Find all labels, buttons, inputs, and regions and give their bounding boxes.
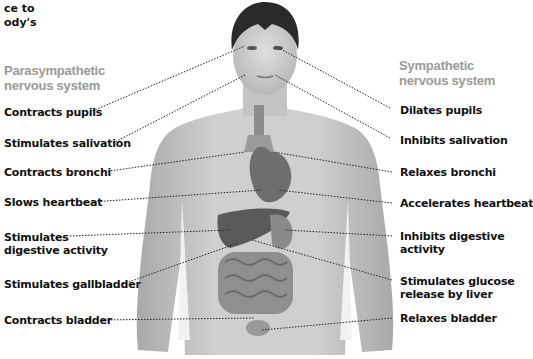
heading-line-2: nervous system	[4, 78, 105, 93]
parasympathetic-heading: Parasympathetic nervous system	[4, 63, 105, 93]
label-text-line-1: Stimulates glucose	[400, 275, 515, 288]
para-label-stimulates-salivation: Stimulates salivation	[4, 137, 131, 150]
para-label-stimulates-digestive: Stimulates digestive activity	[4, 231, 108, 257]
intro-text-fragment: ce to ody's	[4, 2, 37, 30]
label-text-line-2: release by liver	[400, 288, 515, 301]
para-label-stimulates-gallbladder: Stimulates gallbladder	[4, 278, 141, 291]
para-label-contracts-bronchi: Contracts bronchi	[4, 166, 111, 179]
intro-line-1: ce to	[4, 2, 37, 16]
heading-line-1: Parasympathetic	[4, 63, 105, 78]
label-text: Stimulates gallbladder	[4, 278, 141, 291]
label-text-line-2: activity	[400, 243, 504, 256]
para-label-slows-heartbeat: Slows heartbeat	[4, 196, 102, 209]
symp-label-dilates-pupils: Dilates pupils	[400, 104, 482, 117]
para-label-contracts-pupils: Contracts pupils	[4, 106, 102, 119]
bladder	[246, 320, 270, 336]
intro-line-2: ody's	[4, 16, 37, 30]
para-label-contracts-bladder: Contracts bladder	[4, 314, 112, 327]
symp-label-accelerates-heartbeat: Accelerates heartbeat	[400, 197, 533, 210]
label-text: Inhibits salivation	[400, 134, 508, 147]
symp-label-inhibits-salivation: Inhibits salivation	[400, 134, 508, 147]
label-text: Dilates pupils	[400, 104, 482, 117]
heading-line-2: nervous system	[399, 73, 495, 88]
label-text: Stimulates salivation	[4, 137, 131, 150]
sympathetic-heading: Sympathetic nervous system	[399, 58, 495, 88]
symp-label-inhibits-digestive: Inhibits digestive activity	[400, 230, 504, 256]
trachea	[254, 105, 264, 140]
eye-left	[247, 46, 257, 50]
symp-label-stimulates-glucose: Stimulates glucose release by liver	[400, 275, 515, 301]
label-text-line-1: Stimulates	[4, 231, 108, 244]
label-text: Relaxes bladder	[400, 312, 497, 325]
label-text: Accelerates heartbeat	[400, 197, 533, 210]
label-text: Relaxes bronchi	[400, 166, 496, 179]
label-text-line-2: digestive activity	[4, 244, 108, 257]
symp-label-relaxes-bladder: Relaxes bladder	[400, 312, 497, 325]
label-text: Slows heartbeat	[4, 196, 102, 209]
intestines	[218, 252, 293, 314]
symp-label-relaxes-bronchi: Relaxes bronchi	[400, 166, 496, 179]
heading-line-1: Sympathetic	[399, 58, 495, 73]
label-text: Contracts pupils	[4, 106, 102, 119]
label-text: Contracts bladder	[4, 314, 112, 327]
label-text: Contracts bronchi	[4, 166, 111, 179]
label-text-line-1: Inhibits digestive	[400, 230, 504, 243]
